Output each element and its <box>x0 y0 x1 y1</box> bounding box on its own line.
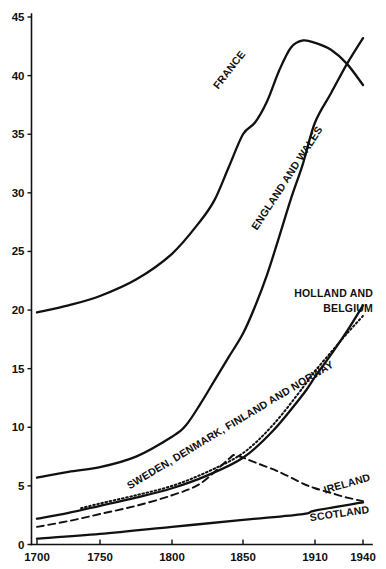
y-tick-label: 45 <box>12 11 25 23</box>
x-tick-label: 1910 <box>302 551 328 563</box>
series-label-holland-and-belgium-line2: BELGIUM <box>323 302 373 314</box>
series-label-holland-and-belgium-line1: HOLLAND AND <box>294 287 373 299</box>
line-chart-figure: 051015202530354045 170017501800185019101… <box>0 0 386 569</box>
y-tick-label: 10 <box>12 421 25 433</box>
y-tick-label: 35 <box>12 128 25 140</box>
y-tick-label: 30 <box>12 187 25 199</box>
y-tick-label: 15 <box>12 363 25 375</box>
x-tick-label: 1700 <box>24 551 50 563</box>
x-tick-label: 1750 <box>87 551 113 563</box>
y-tick-label: 40 <box>12 70 25 82</box>
y-tick-label: 20 <box>12 304 25 316</box>
y-tick-label: 25 <box>12 245 25 257</box>
x-tick-label: 1800 <box>159 551 185 563</box>
y-tick-label: 0 <box>18 539 24 551</box>
x-tick-label: 1940 <box>350 551 376 563</box>
x-tick-label: 1850 <box>230 551 256 563</box>
chart-canvas: 051015202530354045 170017501800185019101… <box>0 0 386 569</box>
y-tick-label: 5 <box>18 480 25 492</box>
